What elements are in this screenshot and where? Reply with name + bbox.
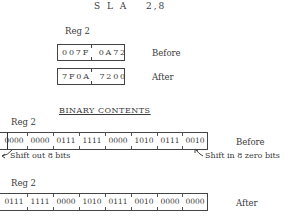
binary-before-box: 0000 0000 0111 1111 0000 1010 0111 0010 — [0, 132, 208, 150]
instruction-mnemonic: S L A — [94, 1, 128, 11]
box-tick — [91, 57, 92, 60]
hex-after-label: After — [152, 72, 174, 82]
binary-before-reg-label: Reg 2 — [11, 117, 36, 127]
shift-in-arrow-icon — [193, 148, 205, 158]
binary-after-box: 0111 1111 0000 1010 0111 0010 0000 0000 — [0, 193, 208, 211]
nibble: 0000 — [157, 194, 183, 210]
nibble: 0000 — [27, 133, 53, 149]
nibble: 1010 — [131, 133, 157, 149]
nibble: 1111 — [27, 194, 53, 210]
hex-before-value: 007F 0A72 — [62, 48, 127, 57]
shift-in-annotation: Shift in 8 zero bits — [205, 151, 280, 160]
nibble: 0010 — [182, 133, 208, 149]
hex-before-box: 007F 0A72 — [57, 44, 125, 61]
box-tick — [91, 81, 92, 84]
nibble: 0000 — [105, 133, 131, 149]
shift-out-annotation: Shift out 8 bits — [10, 151, 70, 160]
instruction-operands: 2,8 — [146, 1, 166, 11]
nibble: 0111 — [0, 194, 29, 210]
nibble: 0000 — [0, 133, 29, 149]
nibble: 0000 — [53, 194, 79, 210]
hex-after-box: 7F0A 7200 — [57, 68, 125, 85]
hex-reg-label: Reg 2 — [65, 26, 90, 36]
box-tick — [91, 69, 92, 72]
nibble: 1111 — [79, 133, 105, 149]
binary-after-reg-label: Reg 2 — [11, 178, 36, 188]
nibble: 1010 — [79, 194, 105, 210]
binary-before-label: Before — [236, 137, 265, 147]
nibble: 0111 — [53, 133, 79, 149]
hex-before-label: Before — [152, 48, 181, 58]
nibble: 0111 — [105, 194, 131, 210]
nibble: 0010 — [131, 194, 157, 210]
box-tick — [91, 45, 92, 48]
hex-after-value: 7F0A 7200 — [62, 72, 127, 81]
nibble: 0000 — [182, 194, 208, 210]
nibble: 0111 — [157, 133, 183, 149]
binary-contents-title: BINARY CONTENTS — [59, 106, 151, 115]
binary-after-label: After — [236, 198, 258, 208]
